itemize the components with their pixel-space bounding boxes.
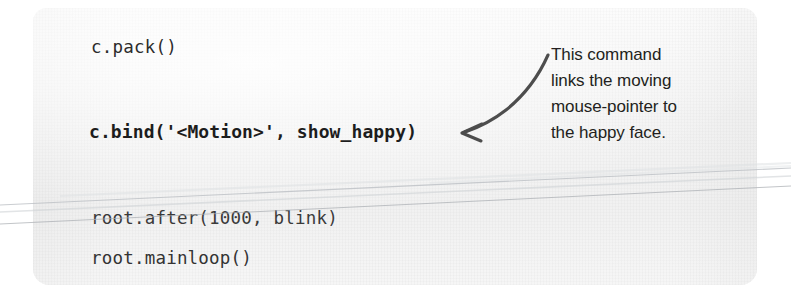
annotation-line-2: links the moving	[551, 68, 723, 94]
code-line-1: c.pack()	[91, 37, 177, 57]
code-line-3: root.after(1000, blink)	[91, 208, 338, 228]
annotation-line-4: the happy face.	[551, 120, 723, 146]
page-root: c.pack() c.bind('<Motion>', show_happy) …	[0, 0, 791, 307]
code-line-2: c.bind('<Motion>', show_happy)	[89, 121, 417, 142]
callout-annotation-text: This command links the moving mouse-poin…	[551, 42, 723, 146]
annotation-line-1: This command	[551, 42, 723, 68]
code-line-4: root.mainloop()	[91, 248, 252, 268]
annotation-line-3: mouse-pointer to	[551, 94, 723, 120]
